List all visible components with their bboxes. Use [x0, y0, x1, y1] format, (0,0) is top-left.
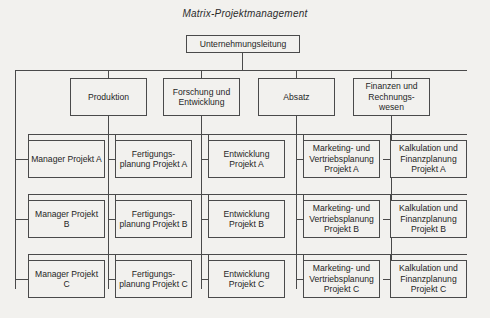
stub-row-c-cell-1 — [108, 279, 115, 280]
node-entwicklung-project-c: Entwicklung Projekt C — [208, 260, 285, 298]
stub-row-b-cell-2 — [201, 219, 208, 220]
node-department-absatz: Absatz — [258, 78, 335, 116]
node-label: Entwicklung Projekt C — [211, 269, 282, 290]
chart-title: Matrix-Projektmanagement — [0, 8, 490, 19]
node-label: Marketing- und Vertriebsplanung Projekt … — [306, 263, 377, 295]
stub-row-a-cell-3 — [296, 159, 303, 160]
node-department-finanzen-rechnungswesen: Finanzen und Rechnungs-wesen — [353, 78, 430, 116]
stub-row-c-cell-3 — [296, 279, 303, 280]
node-kalkulation-finanzplanung-project-a: Kalkulation und Finanzplanung Projekt A — [390, 140, 467, 178]
bus-row-c — [28, 254, 467, 255]
spine-manager-column — [15, 70, 16, 289]
node-fertigungsplanung-project-a: Fertigungs-planung Projekt A — [115, 140, 192, 178]
connector-bus-to-dept-4 — [391, 70, 392, 78]
node-fertigungsplanung-project-c: Fertigungs-planung Projekt C — [115, 260, 192, 298]
node-marketing-vertriebsplanung-project-b: Marketing- und Vertriebsplanung Projekt … — [303, 200, 380, 238]
node-label: Marketing- und Vertriebsplanung Projekt … — [306, 203, 377, 235]
node-label: Forschung und Entwicklung — [166, 87, 237, 108]
bus-row-b — [28, 194, 467, 195]
node-label: Unternehmungsleitung — [189, 39, 297, 50]
node-label: Manager Projekt C — [31, 269, 102, 290]
bus-row-a — [28, 134, 467, 135]
node-manager-project-a: Manager Projekt A — [28, 140, 105, 178]
node-label: Fertigungs-planung Projekt B — [118, 209, 189, 230]
node-label: Kalkulation und Finanzplanung Projekt B — [393, 203, 464, 235]
node-label: Marketing- und Vertriebsplanung Projekt … — [306, 143, 377, 175]
node-entwicklung-project-b: Entwicklung Projekt B — [208, 200, 285, 238]
connector-bus-to-dept-3 — [296, 70, 297, 78]
stub-row-a-cell-4 — [383, 159, 390, 160]
node-label: Fertigungs-planung Projekt C — [118, 269, 189, 290]
bus-departments — [15, 70, 467, 71]
stub-row-c-cell-2 — [201, 279, 208, 280]
node-marketing-vertriebsplanung-project-a: Marketing- und Vertriebsplanung Projekt … — [303, 140, 380, 178]
node-manager-project-c: Manager Projekt C — [28, 260, 105, 298]
connector-top-to-bus — [242, 53, 243, 70]
stub-row-b-cell-4 — [383, 219, 390, 220]
stub-row-b-cell-3 — [296, 219, 303, 220]
node-label: Kalkulation und Finanzplanung Projekt A — [393, 143, 464, 175]
stub-row-a-manager — [15, 159, 28, 160]
node-label: Produktion — [73, 92, 144, 103]
node-label: Manager Projekt A — [31, 154, 102, 165]
node-unternehmungsleitung: Unternehmungsleitung — [186, 35, 300, 53]
node-entwicklung-project-a: Entwicklung Projekt A — [208, 140, 285, 178]
node-label: Absatz — [261, 92, 332, 103]
connector-bus-to-dept-1 — [108, 70, 109, 78]
spine-department-2 — [201, 116, 202, 289]
org-chart-canvas: Matrix-Projektmanagement Unternehmungsle… — [0, 0, 490, 318]
spine-department-3 — [296, 116, 297, 289]
node-label: Entwicklung Projekt B — [211, 209, 282, 230]
node-department-forschung-entwicklung: Forschung und Entwicklung — [163, 78, 240, 116]
connector-bus-to-dept-2 — [201, 70, 202, 78]
node-marketing-vertriebsplanung-project-c: Marketing- und Vertriebsplanung Projekt … — [303, 260, 380, 298]
stub-row-a-cell-2 — [201, 159, 208, 160]
spine-department-1 — [108, 116, 109, 289]
stub-row-b-manager — [15, 219, 28, 220]
node-label: Finanzen und Rechnungs-wesen — [356, 81, 427, 113]
node-label: Entwicklung Projekt A — [211, 149, 282, 170]
node-kalkulation-finanzplanung-project-c: Kalkulation und Finanzplanung Projekt C — [390, 260, 467, 298]
node-label: Fertigungs-planung Projekt A — [118, 149, 189, 170]
stub-row-b-cell-1 — [108, 219, 115, 220]
node-department-produktion: Produktion — [70, 78, 147, 116]
stub-row-c-manager — [15, 279, 28, 280]
node-manager-project-b: Manager Projekt B — [28, 200, 105, 238]
node-fertigungsplanung-project-b: Fertigungs-planung Projekt B — [115, 200, 192, 238]
stub-row-a-cell-1 — [108, 159, 115, 160]
node-kalkulation-finanzplanung-project-b: Kalkulation und Finanzplanung Projekt B — [390, 200, 467, 238]
stub-row-c-cell-4 — [383, 279, 390, 280]
node-label: Kalkulation und Finanzplanung Projekt C — [393, 263, 464, 295]
node-label: Manager Projekt B — [31, 209, 102, 230]
